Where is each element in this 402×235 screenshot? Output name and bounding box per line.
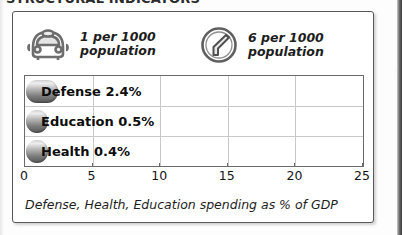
x-axis: 0510152025 (24, 167, 364, 185)
cut-off-headline: STRUCTURAL INDICATORS (6, 0, 306, 5)
x-tick-label: 10 (151, 168, 167, 183)
page-right-edge (397, 0, 402, 235)
plot-area: Defense 2.4%Education 0.5%Health 0.4% (24, 75, 364, 167)
page-left-shadow (0, 0, 4, 235)
legend-item-cars: 1 per 1000 population (25, 25, 156, 63)
legend-label-telephones: 6 per 1000 population (248, 31, 324, 59)
x-tick-mark (92, 163, 93, 167)
x-tick-mark (294, 163, 295, 167)
legend-label-cars: 1 per 1000 population (80, 30, 156, 58)
chart-caption: Defense, Health, Education spending as %… (25, 197, 338, 212)
indicator-panel: 1 per 1000 population 6 per 1000 populat… (12, 11, 374, 223)
x-tick-label: 15 (219, 168, 235, 183)
x-tick-mark (362, 163, 363, 167)
legend: 1 per 1000 population 6 per 1000 populat… (13, 18, 373, 68)
scanned-page: STRUCTURAL INDICATORS (0, 0, 402, 235)
bar-row: Defense 2.4% (25, 76, 363, 106)
page-right-edge-gap (394, 68, 397, 80)
x-tick-mark (24, 163, 25, 167)
x-tick-label: 5 (88, 168, 96, 183)
bar-label-defense: Defense 2.4% (41, 84, 141, 99)
x-tick-label: 25 (354, 168, 370, 183)
x-tick-label: 0 (20, 168, 28, 183)
x-tick-label: 20 (286, 168, 302, 183)
x-tick-mark (227, 163, 228, 167)
bar-row: Health 0.4% (25, 136, 363, 166)
legend-item-telephones: 6 per 1000 population (199, 25, 324, 65)
bar-chart: Defense 2.4%Education 0.5%Health 0.4% 05… (24, 75, 364, 177)
bar-label-health: Health 0.4% (41, 144, 130, 159)
car-icon (25, 25, 71, 63)
telephone-icon (199, 25, 239, 65)
bar-row: Education 0.5% (25, 106, 363, 136)
x-tick-mark (159, 163, 160, 167)
bar-label-education: Education 0.5% (41, 114, 154, 129)
